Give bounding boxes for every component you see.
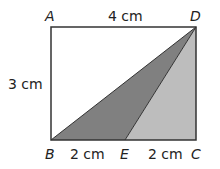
- label-c: C: [191, 146, 201, 162]
- measure-ab: 3 cm: [8, 76, 43, 92]
- label-a: A: [44, 8, 55, 24]
- label-d: D: [190, 8, 201, 24]
- label-b: B: [45, 146, 55, 162]
- rectangle-diagram: A D B E C 4 cm 3 cm 2 cm 2 cm: [0, 0, 220, 169]
- measure-ad: 4 cm: [108, 8, 143, 24]
- measure-be: 2 cm: [70, 146, 105, 162]
- label-e: E: [120, 146, 129, 162]
- measure-ec: 2 cm: [148, 146, 183, 162]
